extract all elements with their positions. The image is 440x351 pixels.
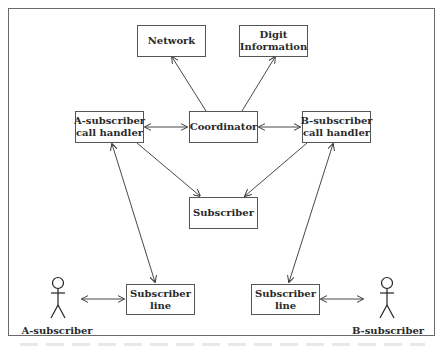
node-network: Network <box>137 25 206 57</box>
a-subscriber-actor-icon <box>51 278 65 319</box>
edges-layer <box>0 0 440 351</box>
node-b-call-handler-label-line1: B-subscriber <box>300 115 372 127</box>
node-a-subscriber-line-label-line1: Subscriber <box>130 288 191 300</box>
node-a-subscriber-line-label-line2: line <box>150 300 171 312</box>
node-b-subscriber-line: Subscriber line <box>251 284 320 315</box>
node-b-call-handler: B-subscriber call handler <box>302 111 371 143</box>
node-a-call-handler: A-subscriber call handler <box>75 111 144 143</box>
node-subscriber: Subscriber <box>189 197 258 229</box>
node-digit-information: Digit Information <box>239 25 308 57</box>
node-b-subscriber-line-label-line1: Subscriber <box>255 288 316 300</box>
node-subscriber-label: Subscriber <box>193 207 254 219</box>
node-coordinator-label: Coordinator <box>190 121 258 133</box>
node-b-subscriber-line-label-line2: line <box>275 300 296 312</box>
edge-coordinator-digit-information <box>242 57 275 111</box>
node-b-call-handler-label-line2: call handler <box>303 127 370 139</box>
edge-coordinator-network <box>172 57 206 111</box>
edge-b-handler-subscriber <box>245 143 307 196</box>
edge-a-handler-subscriber <box>137 143 200 196</box>
node-digit-information-label-line2: Information <box>240 41 308 53</box>
node-network-label: Network <box>148 35 196 47</box>
node-a-subscriber-line: Subscriber line <box>126 284 195 315</box>
node-coordinator: Coordinator <box>189 111 258 143</box>
node-a-call-handler-label-line2: call handler <box>76 127 143 139</box>
b-subscriber-label: B-subscriber <box>352 325 424 336</box>
node-a-call-handler-label-line1: A-subscriber <box>74 115 145 127</box>
cutoff-caption-text <box>20 343 425 346</box>
a-subscriber-label: A-subscriber <box>21 325 92 336</box>
b-subscriber-actor-icon <box>380 278 394 319</box>
edge-a-handler-subscriber-line <box>112 144 155 282</box>
edge-b-handler-subscriber-line <box>289 144 333 282</box>
node-digit-information-label-line1: Digit <box>260 29 288 41</box>
